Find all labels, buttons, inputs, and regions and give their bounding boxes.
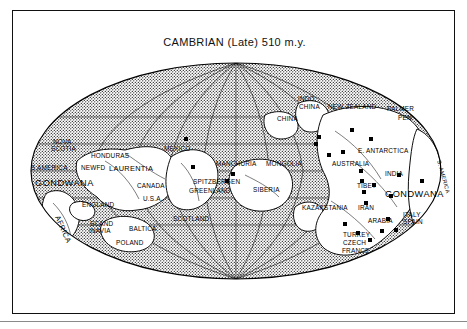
- map-label-czech: CZECH: [343, 239, 366, 246]
- locality-marker: [184, 137, 188, 141]
- map-label-manchuria: MANCHURIA: [216, 160, 257, 167]
- figure-root: CAMBRIAN (Late) 510 m.y.: [0, 0, 467, 329]
- map-label-scand: SCAND: [90, 220, 114, 227]
- map-label-scotia: SCOTIA: [51, 145, 77, 152]
- map-label-e-antarctica: E. ANTARCTICA: [358, 147, 409, 154]
- paleogeographic-map-svg: NOVASCOTIAHONDURASMEXICOS AMERICANEWFDCA…: [13, 11, 456, 315]
- page-rule: [0, 321, 467, 322]
- continent-label-gondwana: GONDWANA: [35, 178, 94, 188]
- map-label-inavia: INAVIA: [89, 227, 111, 234]
- continent-label-laurentia: LAURENTIA: [109, 164, 153, 173]
- map-label-pen: PEN.: [398, 114, 414, 121]
- map-label-u-s-a: U.S.A.: [143, 195, 163, 202]
- map-label-mongolia: MONGOLIA: [266, 160, 303, 167]
- map-label-arabia: ARABIA: [368, 217, 393, 224]
- map-label-siberia: SIBERIA: [253, 186, 280, 193]
- continent-label-gondwana: GONDWANA: [385, 189, 444, 199]
- map-label-scotland: SCOTLAND: [173, 215, 210, 222]
- map-label-poland: POLAND: [116, 239, 144, 246]
- map-label-indo: INDO: [298, 95, 315, 102]
- map-label-spain: SPAIN: [403, 218, 423, 225]
- locality-marker: [394, 228, 398, 232]
- map-label-italy: ITALY: [403, 211, 421, 218]
- map-label-new-zealand: NEW ZEALAND: [328, 103, 377, 110]
- map-label-nova: NOVA: [53, 138, 72, 145]
- map-label-spitzbergen: SPITZBERGEN: [193, 178, 240, 185]
- map-label-greenland: GREENLAND: [189, 187, 231, 194]
- map-canvas: NOVASCOTIAHONDURASMEXICOS AMERICANEWFDCA…: [13, 11, 456, 315]
- map-label-baltica: BALTICA: [129, 225, 157, 232]
- map-label-india: INDIA: [385, 170, 404, 177]
- map-label-mexico: MEXICO: [164, 145, 190, 152]
- map-label-australia: AUSTRALIA: [332, 160, 370, 167]
- locality-marker: [341, 150, 345, 154]
- locality-marker: [380, 229, 384, 233]
- map-label-france: FRANCE: [342, 247, 369, 254]
- locality-marker: [327, 153, 331, 157]
- locality-marker: [191, 165, 195, 169]
- map-label-canada: CANADA: [137, 182, 165, 189]
- map-label-tibet: TIBET: [357, 182, 376, 189]
- map-label-palmer: PALMER: [387, 105, 414, 112]
- locality-marker: [369, 137, 373, 141]
- map-label-england: ENGLAND: [82, 201, 114, 208]
- locality-marker: [362, 190, 366, 194]
- map-label-newfd: NEWFD: [81, 164, 106, 171]
- locality-marker: [350, 128, 354, 132]
- locality-marker: [343, 222, 347, 226]
- map-label-s-america: S AMERICA: [31, 164, 68, 171]
- locality-marker: [231, 172, 235, 176]
- map-label-china: CHINA: [299, 103, 320, 110]
- map-label-kazakstania: KAZAKSTANIA: [302, 204, 348, 211]
- map-label-turkey: TURKEY: [343, 231, 371, 238]
- map-label-honduras: HONDURAS: [91, 152, 129, 159]
- locality-marker: [359, 169, 363, 173]
- locality-marker: [317, 135, 321, 139]
- locality-marker: [420, 179, 424, 183]
- locality-marker: [314, 142, 318, 146]
- figure-frame: CAMBRIAN (Late) 510 m.y.: [12, 10, 455, 314]
- map-label-china: CHINA: [277, 115, 298, 122]
- map-label-iran: IRAN: [358, 204, 374, 211]
- locality-marker: [368, 238, 372, 242]
